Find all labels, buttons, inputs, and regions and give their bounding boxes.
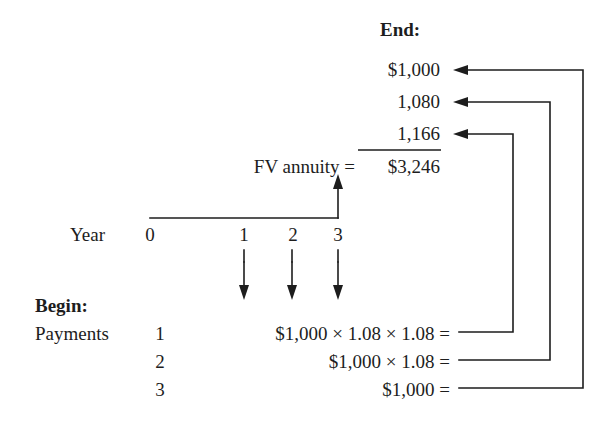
connector-lines (0, 0, 607, 425)
connector-path-3 (459, 70, 583, 388)
fv-arrowhead-icon (333, 174, 343, 189)
connector-arrowhead-icon-1 (453, 129, 468, 139)
payment-arrowhead-icon-2 (287, 285, 297, 300)
connector-arrowhead-icon-2 (453, 97, 468, 107)
fv-annuity-diagram: End: $1,000 1,080 1,166 FV annuity = $3,… (0, 0, 607, 425)
payment-arrowhead-icon-1 (239, 285, 249, 300)
payment-arrowhead-icon-3 (333, 285, 343, 300)
connector-arrowhead-icon-3 (453, 65, 468, 75)
connector-path-2 (459, 102, 550, 360)
connector-path-1 (459, 134, 513, 332)
